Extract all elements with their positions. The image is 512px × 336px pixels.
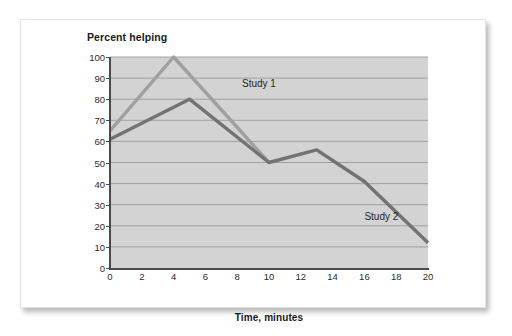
x-tick-label: 6 [203,271,208,282]
y-tick-mark [106,163,110,164]
y-tick-mark [106,141,110,142]
x-tick-label: 12 [296,271,307,282]
y-tick-label: 20 [94,220,105,231]
y-tick-mark [106,184,110,185]
x-tick-label: 16 [359,271,370,282]
y-tick-label: 70 [94,115,105,126]
y-tick-mark [106,99,110,100]
x-tick-label: 18 [391,271,402,282]
y-tick-label: 90 [94,73,105,84]
page-root: Percent helping 0102030405060708090100 0… [0,0,512,336]
x-tick-label: 2 [139,271,144,282]
x-axis-line [109,268,429,270]
y-tick-label: 30 [94,199,105,210]
y-tick-mark [106,78,110,79]
y-tick-mark [106,226,110,227]
y-tick-label: 10 [94,241,105,252]
y-tick-mark [106,268,110,269]
chart-title: Percent helping [87,31,167,43]
y-tick-label: 100 [89,52,105,63]
series-line-study-1 [110,57,269,163]
y-tick-mark [106,57,110,58]
y-tick-label: 50 [94,157,105,168]
x-axis-title: Time, minutes [110,312,428,323]
y-tick-mark [106,205,110,206]
x-tick-label: 4 [171,271,176,282]
y-tick-label: 80 [94,94,105,105]
x-tick-label: 8 [235,271,240,282]
x-tick-label: 20 [423,271,434,282]
series-label-study-2: Study 2 [364,211,398,222]
plot-wrap: 0102030405060708090100 02468101214161820… [110,57,428,269]
figure-card: Percent helping 0102030405060708090100 0… [20,19,486,308]
x-tick-label: 0 [107,271,112,282]
series-label-study-1: Study 1 [242,78,276,89]
y-tick-mark [106,120,110,121]
x-tick-label: 10 [264,271,275,282]
y-tick-label: 0 [100,263,105,274]
y-tick-label: 60 [94,136,105,147]
y-tick-mark [106,247,110,248]
x-tick-label: 14 [327,271,338,282]
y-tick-label: 40 [94,178,105,189]
